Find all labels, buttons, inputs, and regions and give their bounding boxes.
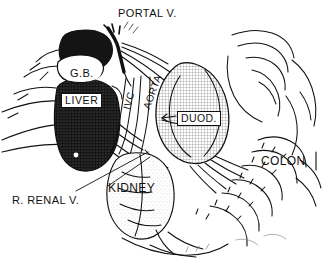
anatomy-line-art: [0, 0, 323, 273]
label-gallbladder: G.B.: [63, 65, 101, 82]
label-right-renal-vein: R. RENAL V.: [12, 195, 79, 206]
label-liver: LIVER: [61, 93, 102, 108]
label-kidney: KIDNEY: [108, 182, 155, 194]
label-duodenum: DUOD.: [177, 111, 221, 126]
label-colon: COLON: [261, 155, 306, 167]
anatomy-figure: PORTAL V. G.B. LIVER IVC AORTA DUOD. COL…: [0, 0, 323, 273]
label-portal-vein: PORTAL V.: [118, 8, 177, 19]
